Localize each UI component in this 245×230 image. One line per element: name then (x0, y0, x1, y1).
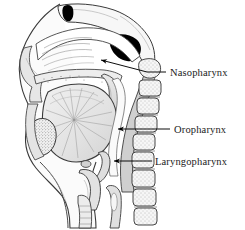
hyoid-bone (81, 161, 91, 168)
tongue (42, 84, 116, 162)
vertebra-t2 (134, 208, 157, 225)
vertebra-c2 (139, 80, 161, 96)
vertebra-c6 (132, 152, 154, 168)
vertebra-t1 (133, 189, 156, 206)
cervical-vertebrae (132, 59, 161, 225)
vertebra-c7 (132, 170, 155, 187)
anatomy-figure: Nasopharynx Oropharynx Laryngopharynx (0, 0, 245, 230)
label-oropharynx: Oropharynx (174, 125, 226, 136)
vertebra-c1 (139, 59, 161, 79)
label-laryngopharynx: Laryngopharynx (155, 157, 227, 168)
trachea (78, 195, 92, 228)
vertebra-c5 (133, 134, 155, 150)
anatomy-illustration (0, 0, 245, 230)
esophagus (106, 185, 121, 228)
label-nasopharynx: Nasopharynx (170, 68, 228, 79)
vertebra-c3 (137, 98, 159, 114)
vertebra-c4 (135, 116, 157, 132)
